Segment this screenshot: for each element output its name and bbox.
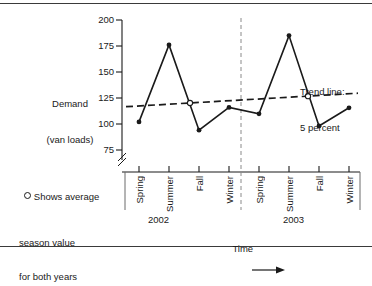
right-arrow-icon: [237, 254, 287, 286]
year-group-label-2003: 2003: [283, 214, 304, 225]
data-point-spring-2003: [257, 111, 262, 116]
trend-annotation-line2: 5 percent: [300, 122, 370, 134]
legend-note: Shows average season value for both year…: [8, 156, 116, 286]
year-group-label-2002: 2002: [148, 214, 169, 225]
x-axis-title: Time: [222, 232, 286, 286]
data-point-winter-2002: [227, 105, 232, 110]
y-tick-label-175: 175: [88, 40, 114, 51]
data-point-summer-2002: [167, 43, 172, 48]
trend-annotation-line1: Trend line:: [300, 86, 370, 98]
x-label-summer-2003: Summer: [284, 176, 295, 212]
y-axis-title-line1: Demand: [32, 98, 108, 110]
x-label-fall-2003: Fall: [314, 176, 325, 191]
x-axis-title-text: Time: [232, 243, 253, 254]
open-circle-icon: [24, 192, 31, 199]
average-season-marker-2002: [187, 100, 192, 105]
y-tick-label-200: 200: [88, 14, 114, 25]
legend-line3: for both years: [8, 271, 116, 283]
data-point-summer-2003: [287, 33, 292, 38]
x-label-winter-2002: Winter: [224, 176, 235, 203]
y-axis-title-line2: (van loads): [32, 134, 108, 146]
x-label-summer-2002: Summer: [164, 176, 175, 212]
trend-line-annotation: Trend line: 5 percent: [300, 62, 370, 158]
x-label-fall-2002: Fall: [194, 176, 205, 191]
legend-line1: Shows average: [34, 191, 99, 202]
x-label-spring-2003: Spring: [254, 176, 265, 203]
legend-first-line: Shows average: [8, 179, 116, 214]
x-label-spring-2002: Spring: [134, 176, 145, 203]
x-label-winter-2003: Winter: [344, 176, 355, 203]
data-point-spring-2002: [137, 120, 142, 125]
data-point-fall-2002: [197, 128, 202, 133]
legend-line2: season value: [8, 237, 116, 249]
